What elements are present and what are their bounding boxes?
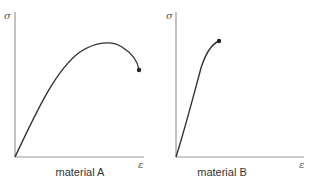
curve-material-a — [15, 43, 139, 157]
panel-material-a: σ ε material A — [4, 10, 144, 178]
epsilon-label-b: ε — [299, 159, 304, 170]
stress-strain-diagram: σ ε material A σ ε material B — [0, 0, 313, 186]
panel-material-b: σ ε material B — [166, 10, 304, 178]
caption-material-a: material A — [56, 166, 106, 178]
fracture-point-a — [137, 68, 141, 72]
epsilon-label-a: ε — [138, 159, 143, 170]
caption-material-b: material B — [197, 166, 247, 178]
fracture-point-b — [217, 39, 221, 43]
sigma-label-a: σ — [4, 10, 12, 21]
sigma-label-b: σ — [166, 10, 174, 21]
curve-material-b — [176, 41, 219, 157]
